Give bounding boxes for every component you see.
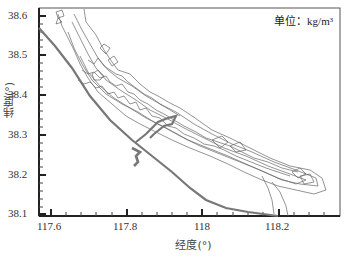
x-tick-label: 117.6 <box>37 220 61 232</box>
y-axis-label: 纬度(°) <box>2 82 18 118</box>
y-tick-label: 38.1 <box>8 207 27 219</box>
y-tick-label: 38.6 <box>8 9 27 21</box>
channel-tail <box>132 148 140 166</box>
x-tick-label: 118.2 <box>265 220 289 232</box>
x-tick-label: 117.8 <box>113 220 137 232</box>
plot-frame <box>39 8 340 216</box>
x-axis-label: 经度(°) <box>0 236 347 252</box>
y-major-ticks <box>39 16 46 214</box>
x-tick-label: 118 <box>194 220 210 232</box>
y-tick-label: 38.5 <box>8 48 27 60</box>
y-tick-label: 38.3 <box>8 128 27 140</box>
y-tick-label: 38.2 <box>8 168 27 180</box>
concentration-contours <box>56 9 326 216</box>
unit-annotation: 单位：kg/m³ <box>274 12 333 28</box>
